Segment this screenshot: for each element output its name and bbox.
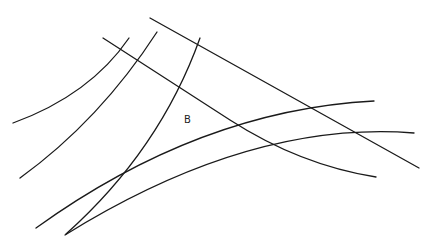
line-second [103, 38, 376, 177]
arc-lower-2 [65, 132, 414, 235]
line-top [150, 18, 419, 168]
diagram-canvas: B [0, 0, 432, 248]
arc-left-1 [13, 38, 129, 123]
region-label-b: B [184, 114, 191, 125]
diagram-svg [0, 0, 432, 248]
